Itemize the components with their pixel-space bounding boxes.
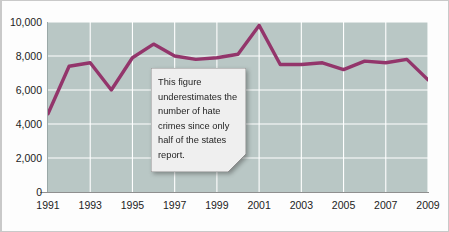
- x-tick-label: 1995: [121, 199, 144, 211]
- hate-crimes-line-chart: 02,0004,0006,0008,00010,000 199119931995…: [0, 0, 449, 232]
- x-tick-label: 2003: [290, 199, 313, 211]
- x-tick-label: 2009: [416, 199, 439, 211]
- x-tick-label: 1991: [36, 199, 59, 211]
- x-tick-label: 1993: [79, 199, 102, 211]
- underreporting-callout: This figureunderestimates thenumber of h…: [151, 68, 246, 172]
- x-tick-label: 2005: [332, 199, 355, 211]
- callout-line: report.: [158, 148, 240, 163]
- callout-line: number of hate: [158, 104, 240, 119]
- x-tick-label: 1999: [205, 199, 228, 211]
- callout-line: crimes since only: [158, 119, 240, 134]
- callout-line: underestimates the: [158, 90, 240, 105]
- callout-line: This figure: [158, 75, 240, 90]
- callout-line: half of the states: [158, 133, 240, 148]
- x-tick-label: 2001: [247, 199, 270, 211]
- x-tick-label: 2007: [374, 199, 397, 211]
- callout-text: This figureunderestimates thenumber of h…: [158, 75, 240, 163]
- x-tick-label: 1997: [163, 199, 186, 211]
